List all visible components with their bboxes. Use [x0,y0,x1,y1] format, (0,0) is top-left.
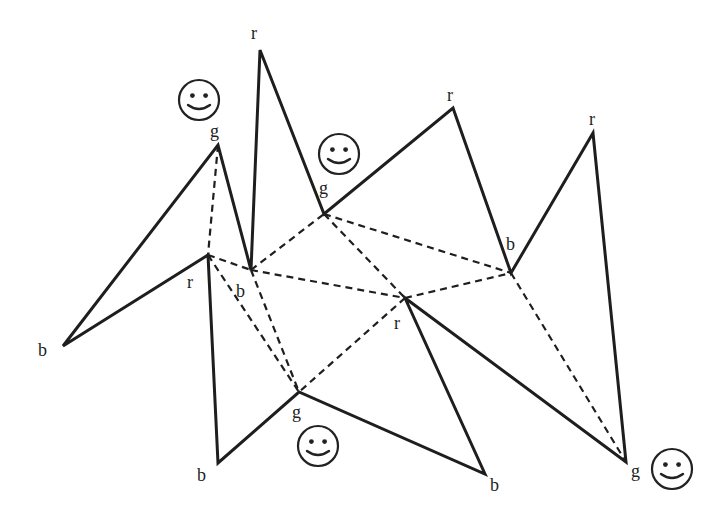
vertex-label-v12: g [292,402,301,422]
diagonal-v3-v11 [251,270,405,298]
vertex-label-v1: b [38,340,47,360]
polygon-triangulation-diagram: bgbrgrbrgrrgbb [0,0,726,517]
vertex-label-v4: r [251,23,257,43]
vertex-label-v3: b [236,281,245,301]
smiley-face-icon [652,449,692,489]
diagonal-v11-v7 [405,273,511,298]
diagram-canvas: bgbrgrbrgrrgbb [0,0,726,517]
smiley-face-icon [298,426,338,466]
smiley-face-icon [179,80,219,120]
vertex-label-v13: b [197,465,206,485]
vertex-label-v2: g [210,121,219,141]
vertex-label-v6: r [447,85,453,105]
vertex-label-v11: r [394,313,400,333]
diagonal-v11-v12 [299,298,405,392]
diagonal-v10-v3 [208,255,251,270]
polygon-boundary [63,50,626,474]
vertex-label-v5: g [319,178,328,198]
diagonal-v3-v12 [251,270,299,392]
smiley-face-icon [319,134,359,174]
vertex-label-v14: b [490,475,499,495]
diagonal-v2-v10 [208,145,218,255]
vertex-label-v10: r [187,272,193,292]
vertex-label-v8: r [589,109,595,129]
vertex-label-v9: g [631,461,640,481]
polygon-outline [63,50,626,474]
diagonal-v3-v5 [251,214,324,270]
vertex-label-v7: b [506,234,515,254]
